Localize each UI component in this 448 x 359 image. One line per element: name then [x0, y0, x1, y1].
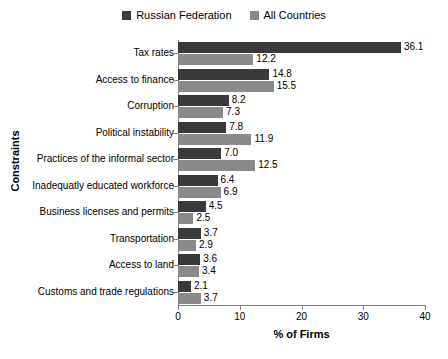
bar-value-label: 12.5: [255, 159, 277, 170]
bar-group: 14.815.5: [178, 68, 425, 92]
bar-value-label: 7.8: [226, 121, 243, 132]
bar-value-label: 3.4: [199, 265, 216, 276]
bar-value-label: 6.9: [221, 186, 238, 197]
bar-all-countries: [178, 293, 201, 304]
bar-all-countries: [178, 213, 193, 224]
bar-russian-federation: [178, 201, 206, 212]
bar-group: 3.63.4: [178, 253, 425, 277]
x-axis-tick: [240, 305, 241, 310]
category-label: Access to finance: [96, 74, 174, 85]
x-axis-tick-label: 0: [175, 312, 181, 322]
x-axis-tick: [425, 305, 426, 310]
legend-label-russian-federation: Russian Federation: [136, 10, 231, 21]
x-axis-tick-label: 20: [296, 312, 307, 322]
bar-group: 2.13.7: [178, 280, 425, 304]
x-axis-tick-label: 40: [419, 312, 430, 322]
bar-value-label: 2.5: [193, 212, 210, 223]
bar-russian-federation: [178, 42, 401, 53]
category-label: Transportation: [110, 233, 174, 244]
bar-value-label: 3.7: [201, 227, 218, 238]
bar-all-countries: [178, 240, 196, 251]
bar-russian-federation: [178, 175, 218, 186]
bar-value-label: 11.9: [251, 133, 273, 144]
bar-all-countries: [178, 54, 253, 65]
category-label: Practices of the informal sector: [37, 153, 174, 164]
bar-all-countries: [178, 107, 223, 118]
bar-value-label: 12.2: [253, 53, 275, 64]
bar-value-label: 15.5: [274, 80, 296, 91]
x-axis-tick: [302, 305, 303, 310]
category-label: Corruption: [127, 100, 174, 111]
bar-russian-federation: [178, 95, 229, 106]
bar-value-label: 8.2: [229, 94, 246, 105]
bar-russian-federation: [178, 228, 201, 239]
x-axis-tick-label: 10: [234, 312, 245, 322]
bar-value-label: 6.4: [218, 174, 235, 185]
bar-all-countries: [178, 160, 255, 171]
category-axis-labels: Tax ratesAccess to financeCorruptionPoli…: [0, 40, 174, 305]
bar-group: 6.46.9: [178, 174, 425, 198]
legend-entry-russian-federation: Russian Federation: [122, 10, 231, 21]
bar-russian-federation: [178, 281, 191, 292]
bar-all-countries: [178, 266, 199, 277]
bar-group: 4.52.5: [178, 200, 425, 224]
bar-russian-federation: [178, 254, 200, 265]
category-label: Inadequatly educated workforce: [32, 180, 174, 191]
bar-group: 3.72.9: [178, 227, 425, 251]
x-axis-title: % of Firms: [178, 328, 425, 340]
bar-value-label: 2.1: [191, 280, 208, 291]
category-label: Tax rates: [133, 47, 174, 58]
legend-entry-all-countries: All Countries: [250, 10, 326, 21]
category-label: Political instability: [96, 127, 174, 138]
bar-group: 7.811.9: [178, 121, 425, 145]
bar-value-label: 3.6: [200, 253, 217, 264]
category-label: Business licenses and permits: [39, 206, 174, 217]
bar-all-countries: [178, 81, 274, 92]
bar-value-label: 3.7: [201, 292, 218, 303]
bar-value-label: 4.5: [206, 200, 223, 211]
bar-russian-federation: [178, 69, 269, 80]
bar-russian-federation: [178, 148, 221, 159]
bar-group: 8.27.3: [178, 94, 425, 118]
bar-russian-federation: [178, 122, 226, 133]
bar-all-countries: [178, 187, 221, 198]
x-axis-tick: [363, 305, 364, 310]
bar-chart: Russian Federation All Countries Tax rat…: [0, 0, 448, 359]
legend-label-all-countries: All Countries: [264, 10, 326, 21]
bar-value-label: 36.1: [401, 41, 423, 52]
category-label: Access to land: [109, 259, 174, 270]
chart-legend: Russian Federation All Countries: [0, 10, 448, 21]
bar-value-label: 7.3: [223, 106, 240, 117]
bar-group: 7.012.5: [178, 147, 425, 171]
legend-swatch-all-countries: [250, 11, 259, 20]
bar-value-label: 7.0: [221, 147, 238, 158]
plot-area: 01020304036.112.214.815.58.27.37.811.97.…: [178, 40, 425, 305]
x-axis-tick-label: 30: [358, 312, 369, 322]
bar-all-countries: [178, 134, 251, 145]
category-label: Customs and trade regulations: [38, 286, 174, 297]
x-axis-tick: [178, 305, 179, 310]
bar-group: 36.112.2: [178, 41, 425, 65]
legend-swatch-russian-federation: [122, 11, 131, 20]
bar-value-label: 14.8: [269, 68, 291, 79]
y-axis-title: Constraints: [9, 116, 21, 206]
bar-value-label: 2.9: [196, 239, 213, 250]
